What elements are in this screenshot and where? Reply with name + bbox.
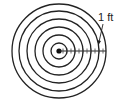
measurement-label: 1 ft: [98, 11, 113, 23]
